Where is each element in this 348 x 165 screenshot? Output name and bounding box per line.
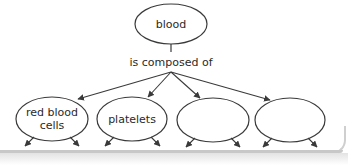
child-2-down-arrow-right	[151, 137, 160, 146]
branch-arrow-1	[78, 72, 171, 99]
child-node-2-label: platelets	[108, 113, 156, 126]
child-node-2-label-line1: platelets	[108, 113, 156, 126]
child-node-1-label-line1: red blood	[26, 106, 78, 119]
child-4-down-arrow-left	[263, 138, 272, 147]
child-3-down-arrow-right	[231, 138, 240, 147]
child-node-1-label-line2: cells	[26, 119, 78, 132]
link-label-composed-of: is composed of	[127, 56, 214, 69]
child-3-down-arrow-left	[186, 138, 195, 147]
child-1-down-arrow-left	[25, 137, 34, 146]
child-1-down-arrow-right	[70, 137, 79, 146]
child-node-1-label: red blood cells	[26, 106, 78, 132]
concept-map-canvas: blood is composed of red blood cells pla…	[0, 0, 348, 165]
child-node-4	[255, 98, 325, 142]
child-node-3	[177, 98, 249, 142]
child-4-down-arrow-right	[308, 138, 317, 147]
frame-bottom-shadow	[0, 153, 348, 165]
root-node-label: blood	[156, 18, 186, 31]
child-2-down-arrow-left	[105, 137, 114, 146]
